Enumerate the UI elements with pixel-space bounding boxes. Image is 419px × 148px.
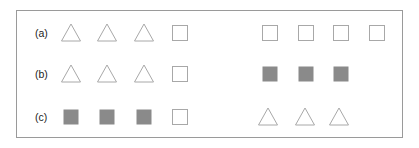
row-0-left-triangle-outline-icon <box>62 24 81 41</box>
row-0-right-square-outline-icon <box>334 26 349 41</box>
row-2-left-square-filled-icon <box>137 110 152 125</box>
row-0-right-square-outline-icon <box>370 26 385 41</box>
row-2-right-triangle-outline-icon <box>259 108 278 125</box>
row-1-left-triangle-outline-icon <box>135 65 154 82</box>
row-2-left-square-filled-icon <box>64 110 79 125</box>
row-0-right-square-outline-icon <box>263 26 278 41</box>
row-0-left-square-outline-icon <box>173 26 188 41</box>
row-0-left-triangle-outline-icon <box>135 24 154 41</box>
row-1-right-square-filled-icon <box>263 67 278 82</box>
row-1-right-square-filled-icon <box>299 67 314 82</box>
row-2-left-square-filled-icon <box>100 110 115 125</box>
row-2-left-square-outline-icon <box>173 110 188 125</box>
row-0-right-square-outline-icon <box>299 26 314 41</box>
row-2-right-triangle-outline-icon <box>296 108 315 125</box>
row-2-right-triangle-outline-icon <box>330 108 349 125</box>
row-1-left-triangle-outline-icon <box>62 65 81 82</box>
row-1-right-square-filled-icon <box>334 67 349 82</box>
shapes-canvas <box>0 0 419 148</box>
row-0-left-triangle-outline-icon <box>98 24 117 41</box>
row-1-left-square-outline-icon <box>173 67 188 82</box>
row-1-left-triangle-outline-icon <box>98 65 117 82</box>
